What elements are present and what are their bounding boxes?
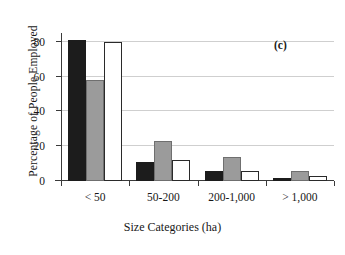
y-tick-label: 40 bbox=[34, 105, 46, 117]
x-tick-mark bbox=[334, 181, 335, 186]
y-tick-label: 60 bbox=[34, 71, 46, 83]
x-tick-mark bbox=[266, 181, 267, 186]
bar[interactable] bbox=[223, 157, 241, 181]
y-axis-line bbox=[61, 33, 62, 181]
bar[interactable] bbox=[154, 141, 172, 181]
bar-group bbox=[136, 33, 190, 181]
y-axis-title: Percentage of People Employed bbox=[27, 6, 39, 196]
y-tick-label: 80 bbox=[34, 36, 46, 48]
bar[interactable] bbox=[291, 171, 309, 181]
panel-label: (c) bbox=[274, 39, 287, 51]
y-tick-label: 0 bbox=[39, 175, 45, 187]
x-axis-title: Size Categories (ha) bbox=[0, 220, 345, 235]
plot-area: 020406080 < 5050-200200-1,000> 1,000 bbox=[61, 33, 334, 181]
x-tick-label: < 50 bbox=[85, 191, 106, 203]
bar-group bbox=[68, 33, 122, 181]
bar[interactable] bbox=[86, 80, 104, 181]
y-tick-label: 20 bbox=[34, 140, 46, 152]
x-tick-label: > 1,000 bbox=[282, 191, 317, 203]
bar[interactable] bbox=[309, 176, 327, 181]
bar-group bbox=[205, 33, 259, 181]
bar[interactable] bbox=[68, 40, 86, 181]
x-tick-mark bbox=[198, 181, 199, 186]
bar-group bbox=[273, 33, 327, 181]
bar[interactable] bbox=[273, 178, 291, 181]
x-tick-mark bbox=[61, 181, 62, 186]
bar[interactable] bbox=[172, 160, 190, 181]
x-tick-label: 200-1,000 bbox=[208, 191, 255, 203]
bar[interactable] bbox=[136, 162, 154, 181]
bar-chart-figure: Percentage of People Employed 020406080 … bbox=[0, 0, 345, 255]
bar[interactable] bbox=[205, 171, 223, 181]
x-tick-mark bbox=[129, 181, 130, 186]
bar[interactable] bbox=[241, 171, 259, 181]
bar[interactable] bbox=[104, 42, 122, 181]
x-tick-label: 50-200 bbox=[147, 191, 180, 203]
